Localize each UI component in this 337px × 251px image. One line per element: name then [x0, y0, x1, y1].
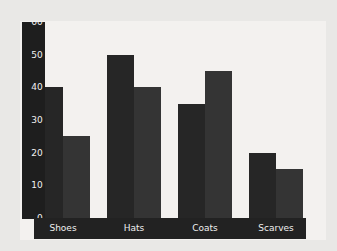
bar-chart-figure: 0102030405060 ShoesHatsCoatsScarves — [0, 0, 337, 251]
bar-shoes-series-2 — [63, 136, 90, 218]
bar-coats-series-1 — [178, 104, 205, 218]
bar-scarves-series-2 — [276, 169, 303, 218]
y-tick-label-30: 30 — [31, 116, 43, 125]
bar-hats-series-1 — [107, 55, 134, 218]
y-tick-label-10: 10 — [31, 181, 43, 190]
y-tick-label-20: 20 — [31, 149, 43, 158]
y-tick-label-40: 40 — [31, 83, 43, 92]
bar-scarves-series-1 — [249, 153, 276, 218]
plot-area: 0102030405060 ShoesHatsCoatsScarves — [20, 21, 326, 240]
x-axis: ShoesHatsCoatsScarves — [34, 218, 306, 239]
y-tick-label-50: 50 — [31, 51, 43, 60]
bars-layer — [20, 21, 326, 240]
x-tick-label-shoes: Shoes — [36, 223, 90, 234]
x-tick-label-coats: Coats — [178, 223, 232, 234]
bar-hats-series-2 — [134, 87, 161, 218]
bar-coats-series-2 — [205, 71, 232, 218]
x-tick-label-scarves: Scarves — [249, 223, 303, 234]
y-tick-label-60: 60 — [31, 21, 43, 27]
y-axis: 0102030405060 — [22, 22, 45, 219]
x-tick-label-hats: Hats — [107, 223, 161, 234]
